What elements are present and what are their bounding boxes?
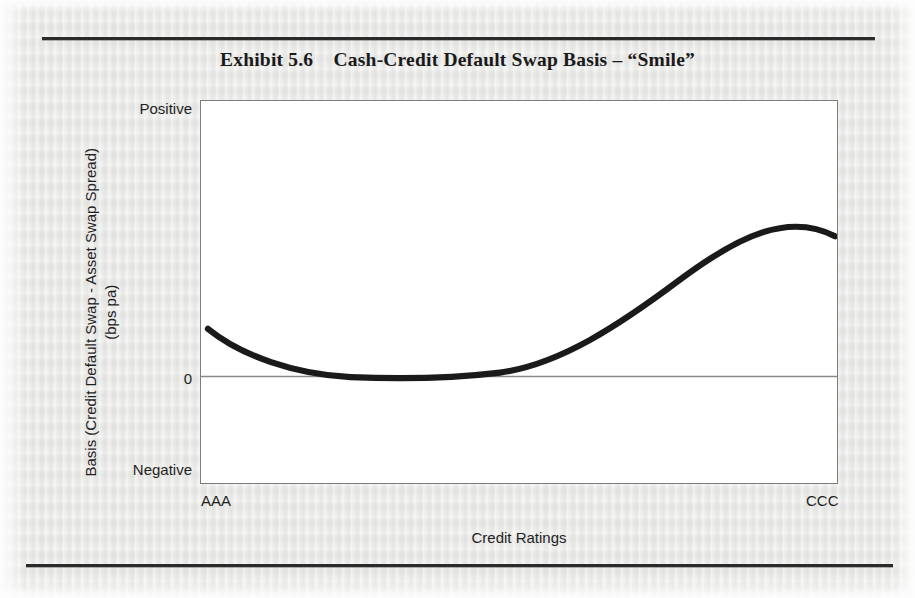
chart-area: Positive 0 Negative Basis (Credit Defaul…: [0, 0, 915, 598]
y-axis-title: Basis (Credit Default Swap - Asset Swap …: [81, 112, 122, 512]
y-axis-title-line2: (bps pa): [101, 112, 121, 512]
plot-frame: [200, 100, 838, 484]
x-tick-label-aaa: AAA: [201, 492, 231, 509]
plot-svg: [201, 101, 837, 483]
x-tick-label-ccc: CCC: [806, 492, 839, 509]
x-axis-title: Credit Ratings: [200, 529, 838, 546]
y-axis-title-line1: Basis (Credit Default Swap - Asset Swap …: [82, 148, 99, 476]
basis-smile-curve: [208, 227, 835, 379]
